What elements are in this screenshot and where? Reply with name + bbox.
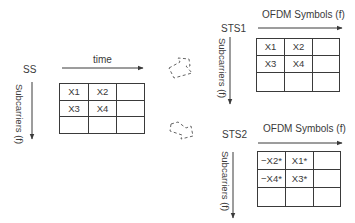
ss-symbol-grid: X1 X2 X3 X4 <box>59 83 145 134</box>
sts2-cell <box>314 152 340 170</box>
sts2-cell <box>286 188 314 206</box>
sts1-cell: X3 <box>257 56 285 73</box>
sts2-symbol-grid: −X2* X1* −X4* X3* <box>257 151 341 207</box>
sts2-cell: X1* <box>286 152 314 170</box>
sts2-label: STS2 <box>222 130 247 140</box>
ss-cell <box>60 117 89 133</box>
sts2-cell <box>314 188 340 206</box>
sts2-subcarriers-label: Subcarriers (f) <box>221 151 231 211</box>
sts2-ofdm-symbols-label: OFDM Symbols (f) <box>263 124 346 134</box>
sts1-cell: X1 <box>257 39 285 56</box>
dashed-arrow-to-sts1-icon <box>169 58 192 78</box>
sts1-symbol-grid: X1 X2 X3 X4 <box>256 38 340 92</box>
sts2-cell <box>314 170 340 188</box>
sts1-cell <box>285 73 313 91</box>
sts2-cell: −X2* <box>258 152 286 170</box>
sts1-cell <box>313 73 339 91</box>
ss-cell: X3 <box>60 101 89 117</box>
sts1-cell <box>313 56 339 73</box>
ss-label: SS <box>23 65 36 75</box>
sts1-cell <box>313 39 339 56</box>
sts1-subcarriers-label: Subcarriers (f) <box>218 38 228 98</box>
sts1-cell <box>257 73 285 91</box>
ss-time-label: time <box>93 55 112 65</box>
sts1-cell: X2 <box>285 39 313 56</box>
sts2-cell: −X4* <box>258 170 286 188</box>
sts1-cell: X4 <box>285 56 313 73</box>
ss-cell <box>117 84 144 101</box>
sts2-cell <box>258 188 286 206</box>
sts1-label: STS1 <box>221 24 246 34</box>
sts1-ofdm-symbols-label: OFDM Symbols (f) <box>262 10 345 20</box>
ss-cell: X4 <box>89 101 117 117</box>
ss-subcarriers-label: Subcarriers (f) <box>15 84 25 144</box>
ss-cell <box>89 117 117 133</box>
sts2-cell: X3* <box>286 170 314 188</box>
ss-cell: X1 <box>60 84 89 101</box>
ss-cell: X2 <box>89 84 117 101</box>
dashed-arrow-to-sts2-icon <box>170 122 193 139</box>
ss-cell <box>117 101 144 117</box>
ss-cell <box>117 117 144 133</box>
